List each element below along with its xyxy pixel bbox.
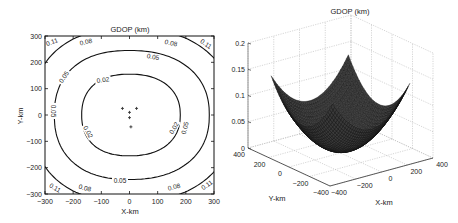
x-tick-label: 400 <box>436 161 448 168</box>
z-tick-label: 0.05 <box>231 118 245 125</box>
contour-label: 0.05 <box>180 121 190 135</box>
y-tick-label: 100 <box>30 85 42 92</box>
station-marker <box>129 125 132 128</box>
x-tick-label: −300 <box>37 198 53 205</box>
contour-label: 0.05 <box>114 177 127 184</box>
y-tick-label: −400 <box>313 189 329 196</box>
x-tick-label: −200 <box>357 182 373 189</box>
x-tick-label: −200 <box>65 198 81 205</box>
x-tick-label: 300 <box>208 198 220 205</box>
y-tick-label: −100 <box>26 138 42 145</box>
contour-line-0.02 <box>82 74 181 156</box>
x-tick-label: 100 <box>152 198 164 205</box>
x-tick-label: 200 <box>410 168 422 175</box>
y-tick-label: 200 <box>30 59 42 66</box>
y-tick-label: 300 <box>30 33 42 40</box>
contour-lines: 0.020.020.020.050.050.050.050.050.080.08… <box>12 10 254 221</box>
y-tick-label: −300 <box>26 191 42 198</box>
contour-plot: GDOP (km) X-km Y-km 0.020.020.020.050.05… <box>12 10 254 221</box>
x-tick-label: 0 <box>389 175 393 182</box>
contour-label: 0.08 <box>78 183 92 193</box>
contour-label: 0.05 <box>50 105 57 118</box>
surface-y-axis-label: Y-km <box>269 194 286 203</box>
z-tick-label: 0.15 <box>231 66 245 73</box>
contour-x-axis-label: X-km <box>121 207 139 216</box>
contour-line-0.05 <box>54 51 209 180</box>
y-tick-label: 200 <box>254 161 266 168</box>
figure-canvas: GDOP (km) X-km Y-km 0.020.020.020.050.05… <box>0 0 458 223</box>
contour-label: 0.05 <box>146 52 160 61</box>
station-marker <box>128 111 131 114</box>
y-tick-label: 0 <box>278 170 282 177</box>
figure: GDOP (km) X-km Y-km 0.020.020.020.050.05… <box>0 0 458 223</box>
surface-plot-title: GDOP (km) <box>330 7 370 16</box>
x-tick-label: −100 <box>93 198 109 205</box>
y-tick-label: −200 <box>26 164 42 171</box>
x-tick-label: 200 <box>180 198 192 205</box>
contour-plot-title: GDOP (km) <box>110 25 150 34</box>
contour-label: 0.08 <box>164 38 178 48</box>
station-marker <box>135 107 138 110</box>
y-tick-label: 0 <box>38 112 42 119</box>
z-tick-label: 0.2 <box>235 40 245 47</box>
z-tick-label: 0.1 <box>235 92 245 99</box>
contour-label: 0.08 <box>167 182 181 192</box>
surface-x-axis-label: X-km <box>375 198 393 207</box>
x-tick-label: −400 <box>331 189 347 196</box>
y-tick-label: 400 <box>233 151 245 158</box>
station-marker <box>128 116 131 119</box>
contour-line-0.08 <box>31 28 234 202</box>
contour-label: 0.08 <box>79 37 93 47</box>
station-marker <box>121 107 124 110</box>
surface-plot: GDOP (km) 00.050.10.150.24002000−200−400… <box>231 7 448 207</box>
x-tick-label: 0 <box>128 198 132 205</box>
contour-y-axis-label: Y-km <box>16 108 25 125</box>
y-tick-label: −200 <box>293 180 309 187</box>
station-markers <box>121 107 138 128</box>
